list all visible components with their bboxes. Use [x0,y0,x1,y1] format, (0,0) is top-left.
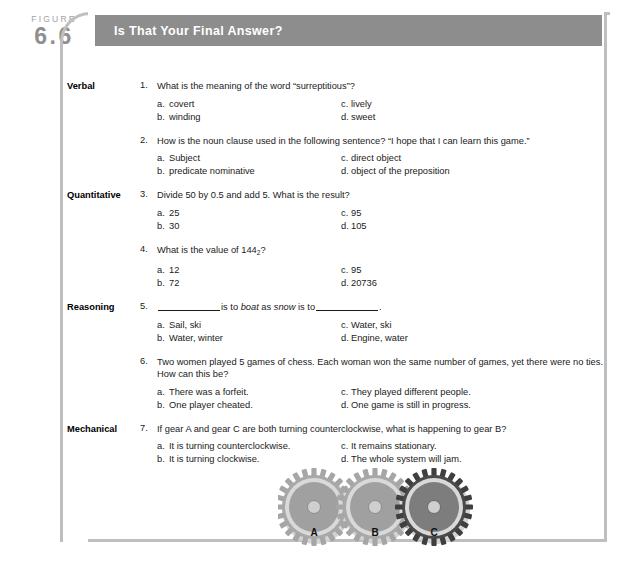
choice-1d[interactable]: d. sweet [341,111,571,124]
answer-blank [316,302,378,311]
category-label-quantitative: Quantitative [62,189,140,301]
choice-3a[interactable]: a. 25 [157,207,341,220]
gear-label-c: C [427,527,441,538]
choice-1b[interactable]: b. winding [157,111,341,124]
quiz-content: Verbal 1. What is the meaning of the wor… [62,80,607,538]
question-text-7: If gear A and gear C are both turning co… [157,423,607,436]
choice-6d[interactable]: d. One game is still in progress. [341,399,571,412]
choice-text: direct object [351,152,401,165]
choice-text: object of the preposition [351,165,450,178]
choices-5: a. Sail, ski b. Water, winter c. Water, … [157,319,607,345]
question-text-1: What is the meaning of the word “surrept… [157,80,607,93]
category-label-reasoning: Reasoning [62,301,140,423]
choice-3c[interactable]: c. 95 [341,207,571,220]
choice-letter: a. [157,98,169,111]
question-text-6: Two women played 5 games of chess. Each … [157,356,607,381]
choice-7c[interactable]: c. It remains stationary. [341,440,571,453]
question-text-3: Divide 50 by 0.5 and add 5. What is the … [157,189,607,202]
choice-6a[interactable]: a. There was a forfeit. [157,386,341,399]
choice-letter: c. [341,98,351,111]
choice-2b[interactable]: b. predicate nominative [157,165,341,178]
choice-text: One player cheated. [169,399,253,412]
question-7: 7. If gear A and gear C are both turning… [140,423,607,436]
question-1: 1. What is the meaning of the word “surr… [140,80,607,93]
choice-text: 30 [169,220,179,233]
choice-text: sweet [351,111,375,124]
question-number-6: 6. [140,356,157,381]
section-reasoning: Reasoning 5. is to boat as snow is to. a… [62,301,607,423]
choice-text: 95 [351,264,361,277]
choice-6c[interactable]: c. They played different people. [341,386,571,399]
question-2: 2. How is the noun clause used in the fo… [140,135,607,148]
choice-text: They played different people. [351,386,471,399]
choice-text: winding [169,111,201,124]
choice-letter: c. [341,440,351,453]
choice-letter: a. [157,152,169,165]
choice-text: Sail, ski [169,319,201,332]
question-number-5: 5. [140,301,157,314]
choice-letter: d. [341,111,351,124]
choices-6: a. There was a forfeit. b. One player ch… [157,386,607,412]
choice-5b[interactable]: b. Water, winter [157,332,341,345]
choice-1a[interactable]: a. covert [157,98,341,111]
choice-text: Water, winter [169,332,223,345]
choice-6b[interactable]: b. One player cheated. [157,399,341,412]
choice-letter: a. [157,264,169,277]
choice-letter: c. [341,386,351,399]
question-text-2: How is the noun clause used in the follo… [157,135,607,148]
choice-text: lively [351,98,372,111]
choice-1c[interactable]: c. lively [341,98,571,111]
choice-4c[interactable]: c. 95 [341,264,571,277]
choice-3d[interactable]: d. 105 [341,220,571,233]
gear-labels: A B C [278,527,478,541]
choice-text: Water, ski [351,319,391,332]
choice-5a[interactable]: a. Sail, ski [157,319,341,332]
choice-letter: c. [341,152,351,165]
answer-blank [158,302,220,311]
question-4: 4. What is the value of 1442? [140,244,607,260]
choice-letter: b. [157,399,169,412]
choice-5d[interactable]: d. Engine, water [341,332,571,345]
choice-letter: a. [157,386,169,399]
choice-text: 72 [169,277,179,290]
choice-2a[interactable]: a. Subject [157,152,341,165]
choice-3b[interactable]: b. 30 [157,220,341,233]
choice-text: 20736 [351,277,377,290]
question-5: 5. is to boat as snow is to. [140,301,607,314]
choice-letter: d. [341,165,351,178]
choice-text: There was a forfeit. [169,386,249,399]
choice-text: 12 [169,264,179,277]
choice-letter: d. [341,277,351,290]
question-number-3: 3. [140,189,157,202]
choice-text: 105 [351,220,367,233]
choice-2d[interactable]: d. object of the preposition [341,165,571,178]
choice-letter: b. [157,220,169,233]
choice-4d[interactable]: d. 20736 [341,277,571,290]
choice-letter: c. [341,207,351,220]
choice-text: predicate nominative [169,165,255,178]
choice-text: Engine, water [351,332,408,345]
choice-letter: d. [341,220,351,233]
choice-5c[interactable]: c. Water, ski [341,319,571,332]
choice-letter: a. [157,440,169,453]
choices-3: a. 25 b. 30 c. 95 [157,207,607,233]
choices-4: a. 12 b. 72 c. 95 [157,264,607,290]
choice-letter: b. [157,453,169,466]
category-label-mechanical: Mechanical [62,423,140,478]
figure-container: FIGURE 6.6 Is That Your Final Answer? Ve… [0,0,625,566]
category-label-verbal: Verbal [62,80,140,189]
choice-4a[interactable]: a. 12 [157,264,341,277]
choice-letter: c. [341,264,351,277]
figure-header-bar: Is That Your Final Answer? [95,15,602,46]
choices-2: a. Subject b. predicate nominative c. di… [157,152,607,178]
choice-7a[interactable]: a. It is turning counterclockwise. [157,440,341,453]
choice-letter: b. [157,165,169,178]
choice-letter: b. [157,277,169,290]
question-number-2: 2. [140,135,157,148]
question-text-5: is to boat as snow is to. [157,301,607,314]
choice-4b[interactable]: b. 72 [157,277,341,290]
choice-text: 95 [351,207,361,220]
question-number-4: 4. [140,244,157,260]
gear-label-a: A [307,527,321,538]
choice-2c[interactable]: c. direct object [341,152,571,165]
